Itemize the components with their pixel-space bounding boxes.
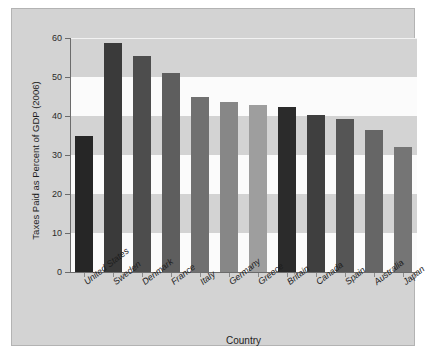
bar-sweden — [104, 43, 122, 272]
y-tick-mark — [65, 272, 70, 273]
bars-layer — [70, 38, 417, 272]
y-tick-mark — [65, 38, 70, 39]
y-axis-line — [70, 38, 71, 273]
bar-germany — [220, 102, 238, 272]
bar-italy — [191, 97, 209, 273]
bar-australia — [365, 130, 383, 272]
gridline-top — [70, 38, 417, 39]
y-tick-mark — [65, 194, 70, 195]
y-tick-mark — [65, 155, 70, 156]
y-tick-label: 0 — [32, 268, 62, 277]
bar-japan — [394, 147, 412, 272]
y-tick-mark — [65, 116, 70, 117]
bar-france — [162, 73, 180, 272]
y-tick-label: 60 — [32, 34, 62, 43]
bar-greece — [249, 105, 267, 272]
bar-united-states — [75, 136, 93, 272]
figure-frame: 0102030405060 Taxes Paid as Percent of G… — [11, 8, 415, 346]
bar-denmark — [133, 56, 151, 272]
bar-spain — [336, 119, 354, 272]
bar-chart-figure: 0102030405060 Taxes Paid as Percent of G… — [0, 0, 428, 359]
y-axis-title: Taxes Paid as Percent of GDP (2006) — [30, 66, 41, 256]
bar-britain — [278, 107, 296, 272]
bar-canada — [307, 115, 325, 272]
y-tick-mark — [65, 77, 70, 78]
x-axis-title: Country — [70, 335, 417, 346]
y-tick-mark — [65, 233, 70, 234]
